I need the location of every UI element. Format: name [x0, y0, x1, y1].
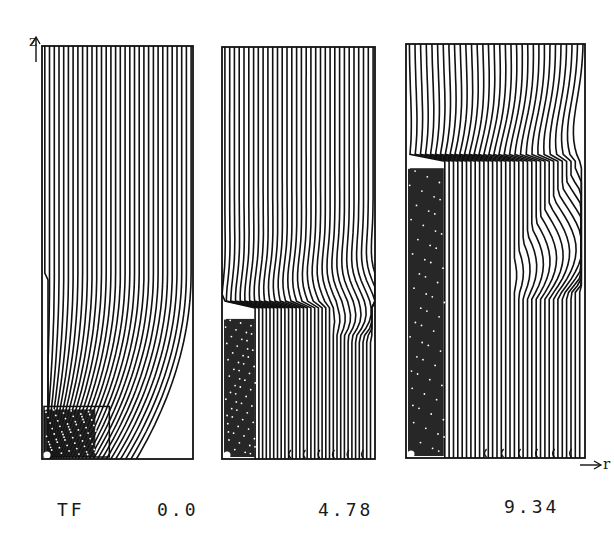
speckle	[234, 385, 236, 387]
speckle	[244, 451, 246, 453]
speckle	[49, 444, 51, 446]
speckle	[241, 338, 243, 340]
speckle	[443, 419, 445, 421]
speckle	[231, 416, 233, 418]
speckle	[47, 417, 49, 419]
speckle	[252, 349, 254, 351]
boundary-hook	[485, 449, 487, 457]
speckle	[439, 182, 441, 184]
speckle	[440, 350, 442, 352]
speckle	[435, 230, 437, 232]
speckle	[229, 319, 231, 321]
speckle	[432, 447, 434, 449]
origin-dot	[224, 452, 231, 459]
speckle	[59, 447, 61, 449]
speckle	[235, 393, 237, 395]
contour-line	[86, 46, 140, 459]
origin-dot	[44, 452, 51, 459]
speckle	[426, 176, 428, 178]
speckle	[227, 359, 229, 361]
speckle	[415, 322, 417, 324]
speckle	[436, 399, 438, 401]
speckle	[55, 439, 57, 441]
panel-3-time-label: 9.34	[504, 496, 559, 517]
speckle	[424, 259, 426, 261]
speckle	[413, 422, 415, 424]
contour-figure: z r TF 0.0 4.78 9.34	[0, 0, 614, 550]
speckle	[228, 439, 230, 441]
speckle	[83, 421, 85, 423]
dense-core-region	[408, 168, 444, 456]
speckle	[239, 378, 241, 380]
speckle	[239, 386, 241, 388]
speckle	[235, 401, 237, 403]
speckle	[225, 398, 227, 400]
speckle	[78, 429, 80, 431]
speckle	[244, 379, 246, 381]
contour-line	[82, 46, 135, 459]
speckle	[441, 385, 443, 387]
speckle	[253, 366, 255, 368]
speckle	[231, 336, 233, 338]
speckle	[241, 402, 243, 404]
speckle	[68, 426, 70, 428]
speckle	[94, 451, 96, 453]
speckle	[63, 436, 65, 438]
speckle	[246, 412, 248, 414]
speckle	[251, 333, 253, 335]
speckle	[91, 419, 93, 421]
z-axis-label: z	[29, 32, 37, 50]
speckle	[56, 441, 58, 443]
speckle	[45, 411, 47, 413]
speckle	[419, 273, 421, 275]
speckle	[414, 170, 416, 172]
speckle	[416, 356, 418, 358]
speckle	[420, 307, 422, 309]
speckle	[63, 412, 65, 414]
speckle	[425, 427, 427, 429]
speckle	[425, 293, 427, 295]
speckle	[65, 418, 67, 420]
speckle	[247, 356, 249, 358]
speckle	[87, 432, 89, 434]
speckle	[254, 438, 256, 440]
speckle	[62, 434, 64, 436]
speckle	[249, 373, 251, 375]
origin-dot	[408, 451, 415, 458]
speckle	[434, 365, 436, 367]
speckle	[412, 405, 414, 407]
speckle	[245, 396, 247, 398]
speckle	[409, 184, 411, 186]
speckle	[438, 316, 440, 318]
speckle	[425, 276, 427, 278]
speckle	[412, 253, 414, 255]
speckle	[93, 425, 95, 427]
speckle	[243, 363, 245, 365]
speckle	[416, 205, 418, 207]
speckle	[227, 423, 229, 425]
speckle	[430, 262, 432, 264]
speckle	[254, 382, 256, 384]
speckle	[243, 435, 245, 437]
speckle	[67, 423, 69, 425]
speckle	[421, 325, 423, 327]
speckle	[64, 439, 66, 441]
speckle	[424, 393, 426, 395]
speckle	[426, 310, 428, 312]
speckle	[70, 410, 72, 412]
speckle	[247, 348, 249, 350]
speckle	[246, 332, 248, 334]
speckle	[82, 440, 84, 442]
speckle	[439, 199, 441, 201]
r-axis-label: r	[603, 455, 610, 473]
speckle	[250, 453, 252, 455]
speckle	[438, 450, 440, 452]
speckle	[240, 322, 242, 324]
speckle	[237, 426, 239, 428]
speckle	[89, 414, 91, 416]
speckle	[233, 368, 235, 370]
speckle	[53, 409, 55, 411]
speckle	[250, 325, 252, 327]
speckle	[224, 318, 226, 320]
speckle	[409, 336, 411, 338]
